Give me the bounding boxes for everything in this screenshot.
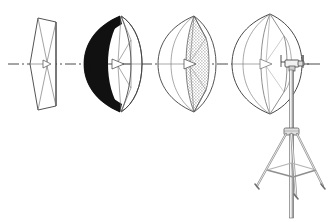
illustration-canvas — [0, 0, 335, 222]
umbrella-progression-illustration: Photographic Umbrella Progression with L… — [0, 0, 335, 222]
stand-center-column — [290, 70, 294, 130]
